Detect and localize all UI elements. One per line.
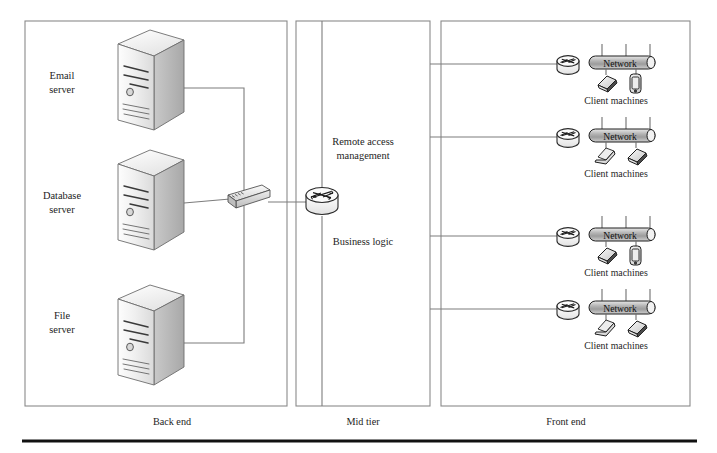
server-email[interactable]	[118, 30, 184, 130]
cluster-1-caption: Client machines	[584, 95, 648, 106]
cluster-2-network-ticks	[602, 117, 650, 129]
cluster-1-device-laptop[interactable]	[598, 76, 617, 92]
cluster-2-device-laptop[interactable]	[628, 149, 647, 165]
cluster-3-caption: Client machines	[584, 267, 648, 278]
network-switch-icon[interactable]	[228, 185, 270, 208]
client-cluster-1: Network Client machines	[557, 44, 655, 106]
cluster-1-router-icon[interactable]	[557, 56, 579, 75]
client-cluster-3: Network Client machines	[557, 216, 655, 278]
server-email-label-line2: server	[49, 84, 75, 95]
server-email-label-line1: Email	[50, 70, 75, 81]
cluster-2-caption: Client machines	[584, 168, 648, 179]
cluster-2-router-icon[interactable]	[557, 129, 579, 148]
network-architecture-diagram: Email server Database server File server	[0, 0, 717, 453]
server-database-label-line1: Database	[43, 190, 81, 201]
cluster-4-device-laptop[interactable]	[628, 321, 647, 337]
server-file-label-line1: File	[54, 310, 71, 321]
server-database-label-line2: server	[49, 204, 75, 215]
server-file[interactable]	[118, 285, 184, 385]
remote-access-management-label-line1: Remote access	[332, 136, 393, 147]
diagram-canvas: Email server Database server File server	[0, 0, 717, 453]
cluster-3-router-icon[interactable]	[557, 228, 579, 247]
cluster-1-network-label: Network	[603, 58, 637, 69]
client-cluster-4: Network Client machines	[557, 289, 655, 351]
core-router-icon[interactable]	[306, 188, 338, 215]
remote-access-management-label-line2: management	[336, 150, 389, 161]
cluster-2-network-label: Network	[603, 131, 637, 142]
cluster-1-network-ticks	[602, 44, 650, 56]
link-email-server-to-bus	[184, 88, 244, 196]
cluster-4-caption: Client machines	[584, 340, 648, 351]
cluster-3-device-laptop[interactable]	[598, 248, 617, 264]
cluster-3-device-phone[interactable]	[630, 246, 641, 265]
server-file-label-line2: server	[49, 324, 75, 335]
tier-caption-front-end: Front end	[546, 416, 585, 427]
cluster-4-network-label: Network	[603, 303, 637, 314]
cluster-3-network-label: Network	[603, 230, 637, 241]
server-database[interactable]	[118, 150, 184, 250]
client-cluster-2: Network Client machines	[557, 117, 655, 179]
link-database-server-to-switch	[184, 199, 230, 203]
tier-caption-back-end: Back end	[153, 416, 191, 427]
link-file-server-to-bus	[184, 206, 244, 343]
cluster-4-router-icon[interactable]	[557, 301, 579, 320]
cluster-3-network-ticks	[602, 216, 650, 228]
cluster-2-device-laptop-open[interactable]	[595, 148, 615, 164]
cluster-4-network-ticks	[602, 289, 650, 301]
business-logic-label: Business logic	[333, 236, 394, 247]
cluster-1-device-phone[interactable]	[630, 74, 641, 93]
cluster-4-device-laptop-open[interactable]	[595, 320, 615, 336]
tier-caption-mid-tier: Mid tier	[346, 416, 380, 427]
panel-front-end	[441, 21, 690, 406]
